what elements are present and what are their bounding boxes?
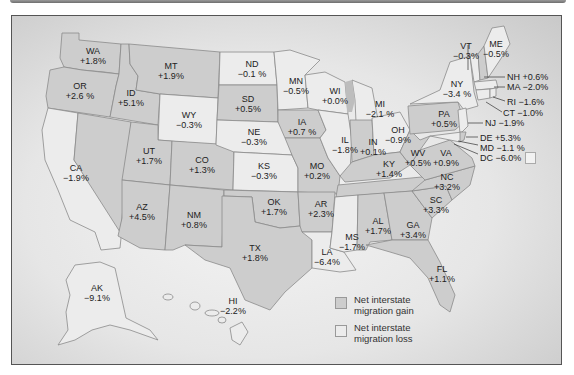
label-IL: IL−1.8% [332, 136, 358, 155]
state-MD [430, 132, 462, 142]
label-WI: WI+0.0% [322, 87, 348, 106]
label-NY: NY−3.4 % [443, 80, 471, 99]
label-WY: WY−0.3% [176, 111, 202, 130]
label-OH: OH−0.9% [385, 126, 411, 145]
label-CO: CO+1.3% [189, 156, 215, 175]
label-AK: AK−9.1% [84, 284, 110, 303]
label-MI: MI−2.1 % [366, 100, 394, 119]
label-CA: CA−1.9% [63, 164, 89, 183]
state-NJ [458, 108, 468, 134]
label-NM: NM+0.8% [181, 211, 207, 230]
label-WA: WA+1.8% [80, 47, 106, 66]
label-MT: MT+1.9% [158, 62, 184, 81]
label-VA: VA+0.9% [433, 149, 459, 168]
legend-gain: Net interstate migration gain [335, 294, 434, 316]
label-ND: ND−0.1 % [238, 60, 266, 79]
label-VT: VT−0.3% [453, 42, 479, 61]
state-AK [58, 262, 158, 345]
label-AZ: AZ+4.5% [129, 203, 155, 222]
legend-gain-swatch [335, 297, 347, 309]
callout-DE: DE +5.3% [480, 133, 521, 143]
label-FL: FL+1.1% [429, 265, 455, 284]
label-AR: AR+2.3% [308, 200, 334, 219]
legend-loss: Net interstate migration loss [335, 322, 434, 344]
label-IN: IN+0.1% [360, 138, 386, 157]
label-MS: MS−1.7% [339, 233, 365, 252]
callout-MD: MD −1.1 % [480, 143, 525, 153]
callout-NJ: NJ −1.9% [485, 118, 524, 128]
label-UT: UT+1.7% [136, 147, 162, 166]
state-CT [476, 89, 490, 100]
label-GA: GA+3.4% [400, 221, 426, 240]
legend-loss-label: Net interstate migration loss [354, 322, 434, 344]
label-ID: ID+5.1% [118, 89, 144, 108]
label-OK: OK+1.7% [261, 198, 287, 217]
label-AL: AL+1.7% [365, 217, 391, 236]
label-MO: MO+0.2% [304, 162, 330, 181]
label-ME: ME−0.5% [483, 40, 509, 59]
label-KS: KS−0.3% [251, 162, 277, 181]
label-IA: IA+0.7 % [288, 118, 316, 137]
label-OR: OR+2.6 % [66, 82, 94, 101]
label-MN: MN−0.5% [283, 77, 309, 96]
label-SC: SC+3.3% [423, 196, 449, 215]
legend-loss-swatch [335, 325, 347, 337]
state-RI [490, 88, 496, 98]
label-LA: LA−6.4% [314, 248, 340, 267]
legend-gain-label: Net interstate migration gain [354, 294, 434, 316]
callout-DC: DC −6.0% [480, 153, 521, 163]
callout-NH: NH +0.6% [507, 72, 548, 82]
label-KY: KY+1.4% [376, 160, 402, 179]
label-NE: NE−0.3% [241, 128, 267, 147]
label-PA: PA+0.5% [431, 110, 457, 129]
callout-CT: CT −1.0% [503, 108, 543, 118]
label-SD: SD+0.5% [235, 95, 261, 114]
label-NC: NC+3.2% [434, 173, 460, 192]
label-TX: TX+1.8% [242, 244, 268, 263]
callout-RI: RI −1.6% [507, 97, 544, 107]
label-HI: HI−2.2% [220, 297, 246, 316]
state-DE [460, 132, 466, 142]
dc-marker-box [525, 152, 536, 164]
label-WV: WV+0.5% [405, 149, 431, 168]
callout-MA: MA −2.0% [507, 82, 548, 92]
